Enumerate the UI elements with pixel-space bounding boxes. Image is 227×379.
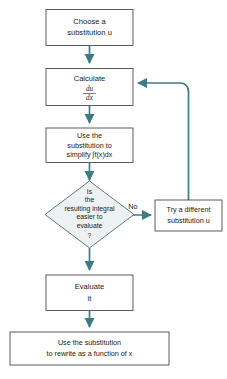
- edge-feedback-to-calculate: [138, 83, 189, 200]
- decision-line-2: the: [85, 196, 95, 203]
- node-try-different-substitution[interactable]: Try a different substitution u: [155, 200, 222, 231]
- node-rewrite-function-of-x[interactable]: Use the substitution to rewrite as a fun…: [10, 332, 169, 365]
- node-evaluate-it[interactable]: Evaluate it: [46, 275, 133, 311]
- rewrite-line-1: Use the substitution: [58, 338, 121, 347]
- decision-line-3: resulting integral: [65, 205, 115, 213]
- choose-substitution-line-2: substitution u: [67, 28, 112, 37]
- try-different-line-1: Try a different: [167, 205, 211, 214]
- choose-substitution-line-1: Choose a: [73, 17, 106, 26]
- edge-label-no: No: [128, 202, 137, 211]
- use-substitution-line-2: substitution to: [67, 141, 111, 150]
- decision-line-1: Is: [87, 188, 93, 195]
- node-calculate-derivative[interactable]: Calculate du dx: [46, 69, 133, 106]
- try-different-line-2: substitution u: [167, 216, 209, 225]
- node-decision-easier[interactable]: Is the resulting integral easier to eval…: [45, 181, 134, 248]
- node-choose-substitution[interactable]: Choose a substitution u: [46, 10, 133, 46]
- fraction-denominator: dx: [86, 94, 94, 102]
- decision-line-4: easier to: [76, 213, 102, 220]
- decision-line-5: evaluate: [77, 222, 103, 229]
- evaluate-it-line-1: Evaluate: [75, 282, 105, 291]
- use-substitution-line-3: simplify ∫f(x)dx: [67, 150, 113, 159]
- rewrite-line-2: to rewrite as a function of x: [47, 349, 133, 358]
- calculate-derivative-label: Calculate: [74, 74, 106, 83]
- node-use-substitution-simplify[interactable]: Use the substitution to simplify ∫f(x)dx: [46, 128, 133, 163]
- flowchart-canvas: Choose a substitution u Calculate du dx …: [0, 0, 227, 379]
- use-substitution-line-1: Use the: [77, 131, 102, 140]
- fraction-numerator: du: [86, 85, 94, 93]
- decision-line-6: ?: [88, 232, 92, 239]
